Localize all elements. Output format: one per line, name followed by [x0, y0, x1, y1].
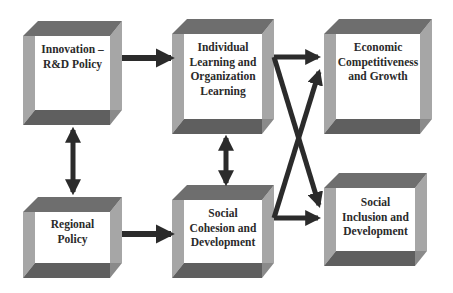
arrow-individual-to-inclusion — [274, 57, 319, 205]
box-innovation — [23, 21, 122, 125]
label-social-cohesion: Social Cohesion and Development — [184, 206, 262, 250]
label-individual-learning: Individual Learning and Organization Lea… — [184, 40, 262, 98]
label-economic-competitiveness: Economic Competitiveness and Growth — [336, 40, 420, 84]
arrow-cohesion-to-economic — [274, 72, 319, 218]
label-regional-policy: Regional Policy — [35, 217, 110, 246]
label-innovation: Innovation – R&D Policy — [35, 42, 110, 71]
label-social-inclusion: Social Inclusion and Development — [336, 195, 415, 239]
